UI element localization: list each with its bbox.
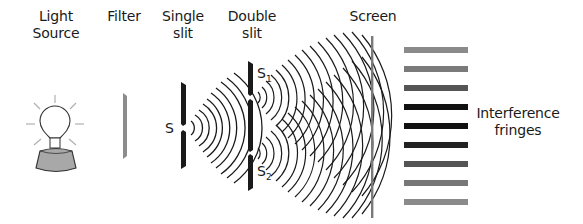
light-bulb-icon: [26, 95, 84, 172]
single-slit-barrier: [181, 82, 186, 169]
fringe: [404, 66, 468, 72]
fringe: [404, 104, 468, 110]
fringe: [404, 47, 468, 53]
fringe: [404, 199, 468, 205]
double-slit-barrier: [248, 61, 253, 191]
fringe: [404, 85, 468, 91]
interference-fringes: [404, 47, 468, 205]
screen-line: [371, 36, 373, 218]
diagram-canvas: [0, 0, 583, 224]
fringe: [404, 161, 468, 167]
fringe: [404, 123, 468, 129]
fringe: [404, 142, 468, 148]
filter-plate: [123, 93, 127, 159]
bulb-neck: [50, 138, 60, 148]
fringe: [404, 180, 468, 186]
bulb-glass: [40, 106, 70, 138]
